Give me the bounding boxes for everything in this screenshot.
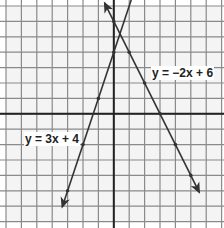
plotted-point — [158, 112, 162, 116]
coordinate-graph: y = 3x + 4 y = −2x + 6 — [0, 0, 224, 228]
graph-plot — [0, 0, 224, 228]
plotted-point — [174, 143, 178, 147]
line-label-3x-plus-4: y = 3x + 4 — [24, 132, 80, 146]
plotted-point — [97, 97, 101, 101]
plotted-point — [189, 174, 193, 178]
plotted-point — [81, 143, 85, 147]
plotted-point — [112, 20, 116, 24]
plotted-point — [112, 50, 116, 54]
plotted-point — [66, 189, 70, 193]
plotted-point — [143, 81, 147, 85]
line-label-neg2x-plus-6: y = −2x + 6 — [151, 66, 214, 80]
plotted-point — [127, 50, 131, 54]
